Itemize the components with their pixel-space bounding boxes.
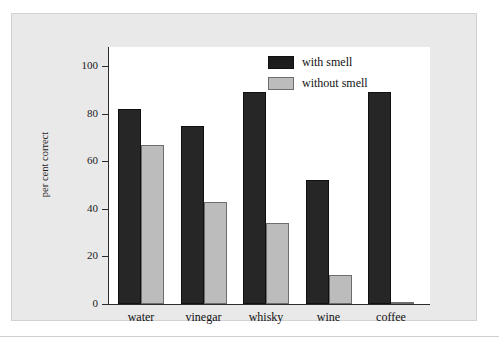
legend-swatch-without-smell bbox=[268, 77, 294, 90]
y-tick-label-text: 80 bbox=[64, 108, 98, 119]
bar-vinegar-without-smell bbox=[204, 202, 227, 304]
legend-item-with-smell: with smell bbox=[268, 54, 418, 71]
bar-whisky-without-smell bbox=[266, 223, 289, 304]
y-axis-title: per cent correct bbox=[39, 105, 50, 225]
x-axis-label-coffee: coffee bbox=[350, 310, 432, 325]
y-tick-mark bbox=[102, 256, 108, 257]
y-tick-label-text: 60 bbox=[64, 155, 98, 166]
y-tick-label: 40 bbox=[60, 203, 98, 214]
bar-wine-with-smell bbox=[306, 180, 329, 304]
legend-swatch-with-smell bbox=[268, 56, 294, 69]
y-tick-label-text: 100 bbox=[64, 60, 98, 71]
bar-coffee-with-smell bbox=[368, 92, 391, 304]
y-tick-mark bbox=[102, 304, 108, 305]
bar-water-with-smell bbox=[118, 109, 141, 304]
y-tick-label: 80 bbox=[60, 108, 98, 119]
y-tick-label-text: 40 bbox=[64, 203, 98, 214]
y-tick-mark bbox=[102, 114, 108, 115]
bar-coffee-without-smell bbox=[391, 302, 414, 304]
bar-vinegar-with-smell bbox=[181, 126, 204, 304]
y-axis-line bbox=[108, 47, 109, 305]
bar-whisky-with-smell bbox=[243, 92, 266, 304]
x-axis-line bbox=[108, 304, 430, 305]
bar-water-without-smell bbox=[141, 145, 164, 304]
legend-label-without-smell: without smell bbox=[302, 76, 368, 91]
y-tick-mark bbox=[102, 209, 108, 210]
y-tick-label-text: 20 bbox=[64, 250, 98, 261]
figure-panel: per cent correct 020406080100 watervineg… bbox=[11, 13, 477, 321]
bar-wine-without-smell bbox=[329, 275, 352, 304]
y-tick-mark bbox=[102, 161, 108, 162]
legend: with smell without smell bbox=[268, 54, 418, 96]
y-tick-label: 20 bbox=[60, 250, 98, 261]
y-tick-mark bbox=[102, 66, 108, 67]
y-tick-label: 60 bbox=[60, 155, 98, 166]
y-tick-label: 100 bbox=[60, 60, 98, 71]
y-tick-label-text: 0 bbox=[64, 298, 98, 309]
legend-label-with-smell: with smell bbox=[302, 55, 352, 70]
bottom-separator-rule bbox=[0, 336, 499, 337]
y-tick-label: 0 bbox=[60, 298, 98, 309]
figure-page: per cent correct 020406080100 watervineg… bbox=[0, 0, 499, 342]
legend-item-without-smell: without smell bbox=[268, 75, 418, 92]
